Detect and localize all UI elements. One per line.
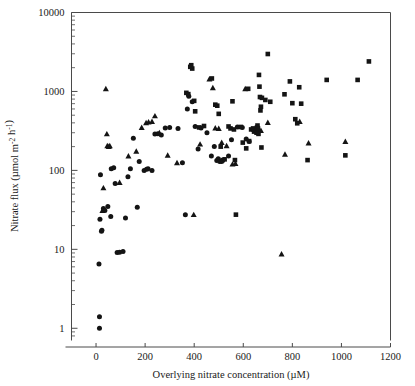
series-triangles xyxy=(99,76,348,257)
data-point-triangle xyxy=(224,143,230,148)
data-point-circle xyxy=(113,181,118,186)
data-point-circle xyxy=(196,147,201,152)
y-tick-label: 100 xyxy=(49,165,65,176)
data-point-square xyxy=(240,140,245,145)
data-point-square xyxy=(367,59,372,64)
data-point-triangle xyxy=(197,141,203,146)
data-point-square xyxy=(293,117,298,122)
data-point-square xyxy=(290,101,295,106)
data-point-triangle xyxy=(103,86,109,91)
data-point-circle xyxy=(97,217,102,222)
data-point-square xyxy=(230,99,235,104)
data-point-triangle xyxy=(117,180,123,185)
data-point-square xyxy=(244,146,249,151)
data-point-triangle xyxy=(125,153,131,158)
data-point-square xyxy=(259,104,264,109)
data-point-square xyxy=(324,78,329,83)
axes-layer xyxy=(66,13,391,348)
data-point-circle xyxy=(121,249,126,254)
data-point-triangle xyxy=(210,85,216,90)
data-point-square xyxy=(355,78,360,83)
data-point-square xyxy=(192,99,197,104)
data-point-square xyxy=(232,127,237,132)
tick-layer xyxy=(72,13,391,348)
data-point-square xyxy=(246,87,251,92)
data-point-circle xyxy=(167,125,172,130)
data-point-circle xyxy=(137,159,142,164)
data-point-square xyxy=(202,124,207,129)
data-point-square xyxy=(299,101,304,106)
data-point-square xyxy=(297,85,302,90)
data-point-circle xyxy=(97,314,102,319)
data-point-circle xyxy=(163,125,168,130)
data-point-square xyxy=(257,84,262,89)
data-point-square xyxy=(266,52,271,57)
axis-title-layer: Overlying nitrate concentration (µM) Nit… xyxy=(3,119,310,381)
data-point-circle xyxy=(105,204,110,209)
data-point-circle xyxy=(149,168,154,173)
data-point-square xyxy=(222,157,227,162)
data-point-triangle xyxy=(100,185,106,190)
data-point-circle xyxy=(99,228,104,233)
data-point-circle xyxy=(135,205,140,210)
x-tick-label: 200 xyxy=(137,351,153,362)
data-point-circle xyxy=(229,137,234,142)
data-point-circle xyxy=(98,172,103,177)
x-tick-label: 800 xyxy=(284,351,300,362)
x-axis-title: Overlying nitrate concentration (µM) xyxy=(153,369,310,381)
data-point-square xyxy=(343,153,348,158)
tick-label-layer: 020040060080010001200110100100010000 xyxy=(38,7,401,362)
data-point-circle xyxy=(185,106,190,111)
x-tick-label: 1200 xyxy=(380,351,401,362)
data-point-square xyxy=(234,212,239,217)
x-tick-label: 1000 xyxy=(331,351,352,362)
series-squares xyxy=(184,52,371,217)
data-point-triangle xyxy=(104,131,110,136)
data-point-square xyxy=(257,73,262,78)
x-tick-label: 0 xyxy=(93,351,98,362)
data-point-circle xyxy=(180,160,185,165)
data-point-triangle xyxy=(342,139,348,144)
data-point-triangle xyxy=(265,119,271,124)
data-point-circle xyxy=(131,136,136,141)
data-point-square xyxy=(256,126,261,131)
y-tick-label: 1000 xyxy=(44,86,65,97)
y-tick-label: 10 xyxy=(54,244,65,255)
data-point-square xyxy=(197,125,202,130)
data-point-circle xyxy=(108,214,113,219)
data-point-square xyxy=(256,132,261,137)
data-point-triangle xyxy=(191,212,197,217)
data-point-triangle xyxy=(306,140,312,145)
data-point-triangle xyxy=(174,160,180,165)
data-point-square xyxy=(282,92,287,97)
data-point-circle xyxy=(125,174,130,179)
data-point-triangle xyxy=(279,251,285,256)
data-point-circle xyxy=(97,326,102,331)
data-point-triangle xyxy=(219,140,225,145)
data-point-square xyxy=(288,79,293,84)
data-point-triangle xyxy=(282,151,288,156)
data-point-square xyxy=(268,99,273,104)
data-point-triangle xyxy=(165,152,171,157)
data-point-square xyxy=(239,125,244,130)
data-point-square xyxy=(186,92,191,97)
data-point-triangle xyxy=(152,113,158,118)
data-point-square xyxy=(259,145,264,150)
data-point-square xyxy=(247,139,252,144)
data-point-circle xyxy=(111,165,116,170)
data-point-square xyxy=(263,98,268,103)
data-point-circle xyxy=(209,154,214,159)
data-point-square xyxy=(216,112,221,117)
data-point-square xyxy=(190,66,195,71)
data-point-circle xyxy=(128,166,133,171)
y-axis-title: Nitrate flux (µmol m-2 h-1) xyxy=(3,119,21,232)
data-point-square xyxy=(295,121,300,126)
y-tick-label: 1 xyxy=(59,323,64,334)
x-tick-label: 400 xyxy=(186,351,202,362)
data-point-circle xyxy=(212,144,217,149)
plot-frame xyxy=(72,13,391,341)
data-point-circle xyxy=(183,212,188,217)
data-point-circle xyxy=(204,130,209,135)
data-point-circle xyxy=(96,262,101,267)
data-point-square xyxy=(193,109,198,114)
